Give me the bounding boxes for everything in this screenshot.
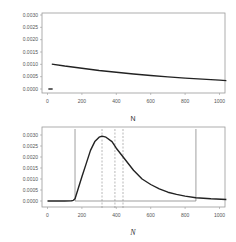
x-tick-label: 200 [78, 212, 87, 218]
x-tick-label: 0 [46, 212, 49, 218]
x-axis-title: N [129, 228, 136, 237]
series-line-density [48, 136, 227, 201]
plot-frame [42, 127, 225, 207]
y-tick-label: 0.0030 [23, 132, 39, 138]
y-tick-label: 0.0025 [23, 143, 39, 149]
y-tick-label: 0.0015 [23, 49, 39, 55]
y-tick-label: 0.0020 [23, 36, 39, 42]
y-tick-label: 0.0000 [23, 86, 39, 92]
x-axis: 02004006008001000 [46, 93, 225, 104]
y-tick-label: 0.0020 [23, 154, 39, 160]
series-line-decay [52, 64, 227, 81]
y-axis: 0.00000.00050.00100.00150.00200.00250.00… [23, 132, 42, 204]
y-tick-label: 0.0010 [23, 176, 39, 182]
x-tick-label: 400 [112, 212, 121, 218]
x-tick-label: 800 [181, 98, 190, 104]
figure: 0.00000.00050.00100.00150.00200.00250.00… [0, 0, 236, 242]
y-tick-label: 0.0025 [23, 24, 39, 30]
top-panel: 0.00000.00050.00100.00150.00200.00250.00… [23, 12, 227, 122]
series-group [48, 64, 226, 89]
x-axis-title: N [130, 115, 135, 122]
x-tick-label: 800 [181, 212, 190, 218]
x-tick-label: 400 [112, 98, 121, 104]
x-tick-label: 1000 [214, 98, 225, 104]
x-tick-label: 1000 [214, 212, 225, 218]
x-tick-label: 600 [147, 212, 156, 218]
x-tick-label: 0 [46, 98, 49, 104]
x-tick-label: 600 [147, 98, 156, 104]
x-tick-label: 200 [78, 98, 87, 104]
y-tick-label: 0.0015 [23, 165, 39, 171]
y-tick-label: 0.0000 [23, 198, 39, 204]
y-tick-label: 0.0010 [23, 61, 39, 67]
x-axis: 02004006008001000 [46, 207, 225, 218]
reference-box [75, 129, 196, 201]
y-tick-label: 0.0030 [23, 12, 39, 18]
bottom-panel: 0.00000.00050.00100.00150.00200.00250.00… [23, 127, 227, 237]
y-tick-label: 0.0005 [23, 187, 39, 193]
y-tick-label: 0.0005 [23, 73, 39, 79]
y-axis: 0.00000.00050.00100.00150.00200.00250.00… [23, 12, 42, 92]
reference-lines [75, 129, 196, 208]
plot-frame [42, 13, 225, 93]
series-group [48, 136, 227, 201]
